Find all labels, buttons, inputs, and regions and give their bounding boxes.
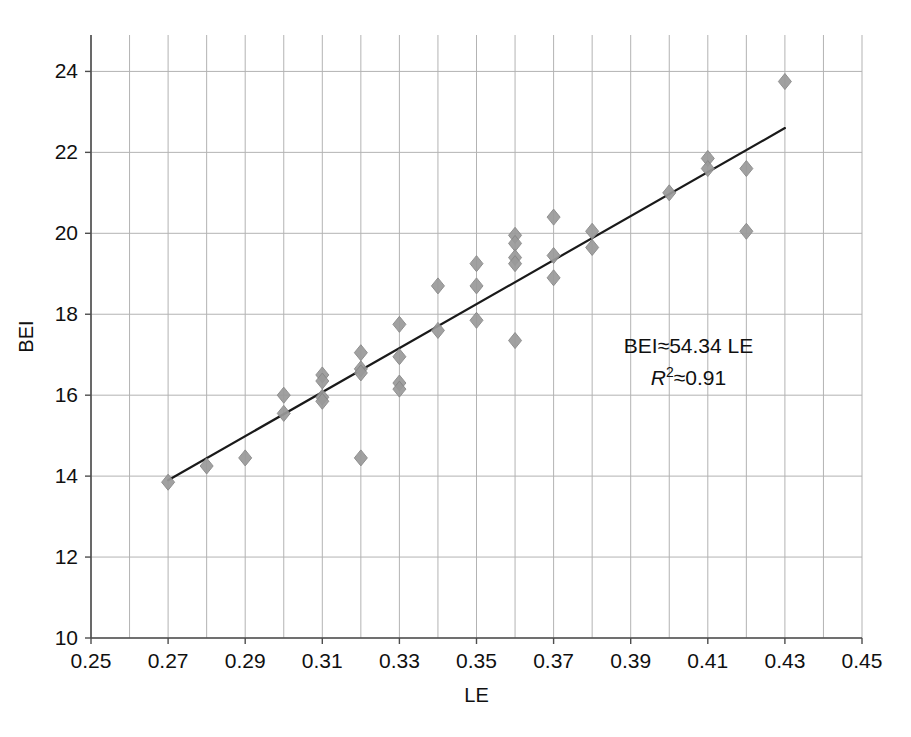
data-point-marker [547,270,560,286]
data-point-marker [277,405,290,421]
plot-canvas: 0.250.270.290.310.330.350.370.390.410.43… [0,0,911,737]
x-tick-label: 0.25 [71,649,112,672]
data-point-marker [547,209,560,225]
y-tick-label: 20 [55,221,78,244]
data-point-marker [509,333,522,349]
x-tick-label: 0.41 [687,649,728,672]
y-tick-label: 18 [55,302,78,325]
data-point-marker [354,450,367,466]
x-tick-label: 0.27 [148,649,189,672]
annotation-r-squared: R2≈0.91 [651,364,726,389]
data-point-marker [663,185,676,201]
data-point-marker [547,248,560,264]
x-tick-label: 0.35 [456,649,497,672]
x-tick-label: 0.43 [764,649,805,672]
data-point-marker [431,322,444,338]
y-tick-label: 22 [55,140,78,163]
data-point-marker [393,316,406,332]
x-tick-label: 0.29 [225,649,266,672]
annotation-r-symbol: R [651,366,666,389]
x-tick-label: 0.39 [610,649,651,672]
x-axis-title: LE [464,684,488,706]
data-point-marker [431,278,444,294]
y-tick-label: 24 [55,59,79,82]
x-tick-label: 0.31 [302,649,343,672]
y-tick-label: 16 [55,383,78,406]
x-tick-labels: 0.250.270.290.310.330.350.370.390.410.43… [71,649,883,672]
data-point-marker [470,256,483,272]
y-tick-label: 14 [55,464,79,487]
scatter-chart: 0.250.270.290.310.330.350.370.390.410.43… [0,0,911,737]
data-point-marker [239,450,252,466]
data-point-marker [277,387,290,403]
data-point-marker [740,223,753,239]
x-tick-label: 0.33 [379,649,420,672]
y-tick-label: 10 [55,626,78,649]
x-tick-label: 0.45 [842,649,883,672]
regression-annotation: BEI≈54.34 LER2≈0.91 [624,334,753,389]
data-point-marker [354,345,367,361]
y-axis-title: BEI [15,320,37,352]
data-point-marker [586,223,599,239]
annotation-r-value: ≈0.91 [674,366,726,389]
data-point-marker [778,74,791,90]
x-tick-label: 0.37 [533,649,574,672]
data-point-marker [470,278,483,294]
data-point-marker [740,161,753,177]
y-tick-labels: 1012141618202224 [55,59,79,649]
annotation-equation: BEI≈54.34 LE [624,334,753,357]
y-tick-label: 12 [55,545,78,568]
